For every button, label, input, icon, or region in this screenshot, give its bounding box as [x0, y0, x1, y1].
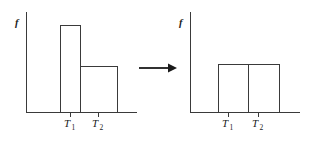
left-bar-T1 — [61, 26, 81, 113]
right-tick-label-T2: T 2 — [252, 117, 264, 132]
right-y-axis-label: f — [179, 17, 184, 28]
two-panel-histogram-figure: f T 1 T 2 — [0, 0, 314, 141]
right-panel-after: f T 1 T 2 — [179, 12, 300, 132]
right-tick-label-T2-letter: T — [252, 117, 259, 129]
right-bar-T1 — [219, 65, 249, 113]
right-tick-label-T1-letter: T — [222, 117, 229, 129]
left-panel-before: f T 1 T 2 — [15, 12, 137, 132]
right-tick-label-T1-subscript: 1 — [230, 123, 234, 132]
left-tick-label-T2: T 2 — [92, 117, 104, 132]
left-y-axis-label: f — [15, 17, 20, 28]
left-tick-label-T1: T 1 — [64, 117, 76, 132]
figure-canvas: f T 1 T 2 — [0, 0, 314, 141]
left-bar-T2 — [81, 67, 118, 113]
left-tick-label-T1-letter: T — [64, 117, 71, 129]
left-tick-label-T1-subscript: 1 — [72, 123, 76, 132]
left-tick-label-T2-subscript: 2 — [100, 123, 104, 132]
left-tick-label-T2-letter: T — [92, 117, 99, 129]
arrow-head — [168, 64, 177, 73]
right-tick-label-T1: T 1 — [222, 117, 234, 132]
right-bar-T2 — [249, 65, 280, 113]
right-tick-label-T2-subscript: 2 — [260, 123, 264, 132]
rightwards-arrow-icon — [139, 64, 177, 73]
